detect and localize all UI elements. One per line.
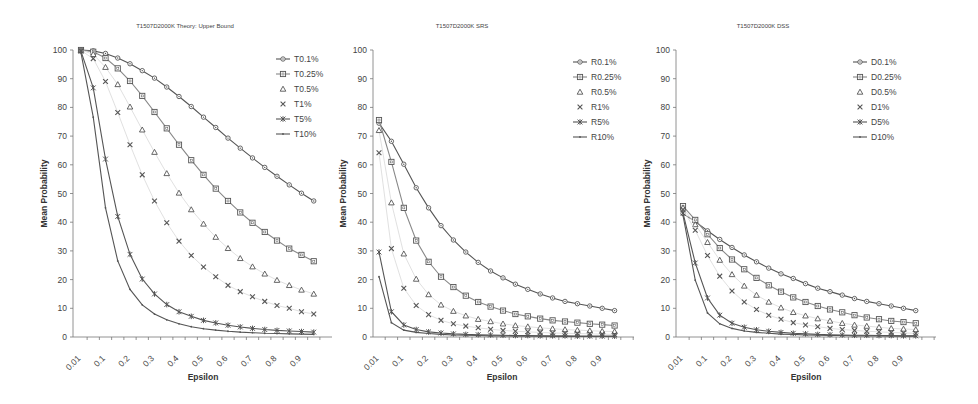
x-tick-label: 0.01 [64,353,83,372]
x-tick-label: 0.9 [889,353,905,369]
y-tick-label: 60 [58,160,68,170]
legend-item: R1% [591,102,610,112]
y-tick-label: 40 [58,217,68,227]
x-tick-label: 0.01 [362,353,381,372]
series-T0.5% [78,47,316,296]
x-tick-label: 0.01 [666,353,685,372]
y-tick-label: 100 [656,45,670,55]
y-tick-label: 30 [58,246,68,256]
x-tick-label: 0.4 [767,353,783,369]
y-axis-label: Mean Probability [642,159,652,227]
x-tick-label: 0.8 [865,353,881,369]
x-tick-label: 0.1 [390,353,406,369]
x-tick-label: 0.2 [415,353,431,369]
x-tick-label: 0.8 [263,353,279,369]
legend-item: D0.5% [871,87,897,97]
x-tick-label: 0.9 [588,353,604,369]
x-tick-label: 0.1 [693,353,709,369]
y-tick-label: 70 [58,131,68,141]
y-tick-label: 100 [53,45,67,55]
legend-item: T0.25% [294,69,324,79]
x-tick-label: 0.7 [840,353,856,369]
legend-item: R0.25% [591,72,622,82]
y-tick-label: 50 [358,189,368,199]
y-tick-label: 10 [58,303,68,313]
y-tick-label: 0 [665,332,670,342]
legend-item: T10% [294,129,317,139]
x-tick-label: 0.6 [514,353,530,369]
y-tick-label: 40 [661,217,671,227]
y-tick-label: 0 [62,332,67,342]
x-tick-label: 0.3 [140,353,156,369]
x-axis-label: Epsilon [487,372,518,382]
y-tick-label: 80 [358,102,368,112]
series-D0.25% [680,204,918,326]
y-tick-label: 50 [661,189,671,199]
y-tick-label: 10 [358,303,368,313]
y-tick-label: 70 [661,131,671,141]
y-axis-label: Mean Probability [338,159,348,227]
legend-item: T1% [294,99,312,109]
x-tick-label: 0.4 [464,353,480,369]
series-D0.5% [680,205,918,332]
chart-title: T1507D2000K DSS [737,23,790,29]
series-D1% [681,207,919,335]
x-tick-label: 0.6 [214,353,230,369]
chart-3: T1507D2000K DSS01020304050607080901000.0… [642,23,936,382]
legend-item: T0.1% [294,54,319,64]
x-tick-label: 0.5 [489,353,505,369]
y-tick-label: 20 [661,275,671,285]
x-tick-label: 0.1 [91,353,107,369]
legend-item: R5% [591,117,610,127]
y-tick-label: 90 [661,74,671,84]
x-tick-label: 0.2 [116,353,132,369]
x-tick-label: 0.7 [539,353,555,369]
series-T10% [80,52,315,335]
chart-title: T1507D2000K SRS [436,23,489,29]
y-tick-label: 90 [358,74,368,84]
x-tick-label: 0.6 [816,353,832,369]
x-tick-label: 0.9 [287,353,303,369]
series-R5% [377,249,617,339]
y-tick-label: 90 [58,74,68,84]
legend-item: R0.5% [591,87,617,97]
legend-item: T0.5% [294,84,319,94]
y-tick-label: 20 [58,275,68,285]
y-tick-label: 50 [58,189,68,199]
x-tick-label: 0.5 [189,353,205,369]
y-tick-label: 30 [661,246,671,256]
legend: R0.1%R0.25%R0.5%R1%R5%R10% [573,57,622,142]
y-tick-label: 0 [362,332,367,342]
chart-figure: T1507D2000K Theory: Upper Bound010203040… [0,0,978,404]
y-tick-label: 60 [661,160,671,170]
y-tick-label: 40 [358,217,368,227]
y-tick-label: 30 [358,246,368,256]
x-tick-label: 0.3 [742,353,758,369]
legend-item: D0.25% [871,72,902,82]
chart-svg: T1507D2000K Theory: Upper Bound010203040… [0,0,978,404]
y-tick-label: 20 [358,275,368,285]
legend: D0.1%D0.25%D0.5%D1%D5%D10% [853,57,902,142]
x-tick-label: 0.7 [238,353,254,369]
x-tick-label: 0.5 [791,353,807,369]
chart-2: T1507D2000K SRS01020304050607080901000.0… [338,23,634,382]
legend-item: R10% [591,132,615,142]
series-R0.1% [377,121,617,313]
legend: T0.1%T0.25%T0.5%T1%T5%T10% [276,54,324,139]
y-tick-label: 100 [353,45,367,55]
y-axis-label: Mean Probability [39,159,49,227]
x-tick-label: 0.3 [439,353,455,369]
x-axis-label: Epsilon [791,372,822,382]
legend-item: D5% [871,117,890,127]
y-tick-label: 10 [661,303,671,313]
series-D0.1% [681,211,918,312]
x-axis-label: Epsilon [188,372,219,382]
x-tick-label: 0.2 [718,353,734,369]
x-tick-label: 0.4 [165,353,181,369]
legend-item: D10% [871,132,895,142]
x-tick-label: 0.8 [563,353,579,369]
legend-item: D0.1% [871,57,897,67]
chart-title: T1507D2000K Theory: Upper Bound [136,23,234,29]
chart-1: T1507D2000K Theory: Upper Bound010203040… [39,23,332,382]
y-tick-label: 80 [58,102,68,112]
